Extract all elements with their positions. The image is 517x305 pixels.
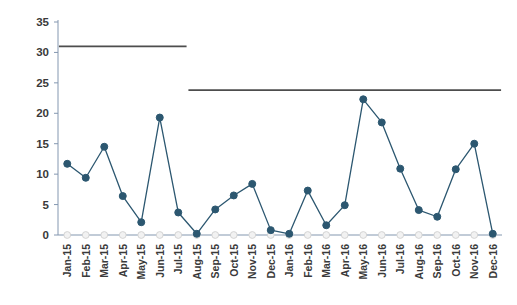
baseline-marker (341, 232, 348, 239)
y-tick-label: 20 (36, 107, 49, 119)
x-tick-label: Nov-16 (468, 244, 480, 279)
x-tick-label: Aug-16 (413, 244, 425, 280)
baseline-marker (138, 232, 145, 239)
baseline-marker (434, 232, 441, 239)
baseline-marker (378, 232, 385, 239)
baseline-marker (452, 232, 459, 239)
data-point (304, 187, 311, 194)
data-point (138, 219, 145, 226)
x-tick-label: Dec-16 (487, 244, 499, 279)
data-point (452, 166, 459, 173)
baseline-marker (360, 232, 367, 239)
data-point (101, 143, 108, 150)
baseline-marker (397, 232, 404, 239)
x-tick-label: Mar-15 (98, 244, 110, 278)
data-point (267, 227, 274, 234)
data-point (471, 140, 478, 147)
data-point (341, 202, 348, 209)
x-tick-label: Apr-16 (339, 244, 351, 277)
x-tick-label: Apr-15 (117, 244, 129, 277)
chart-container: 05101520253035 Jan-15Feb-15Mar-15Apr-15M… (0, 0, 517, 305)
x-tick-label: Jun-15 (154, 244, 166, 278)
baseline-marker (156, 232, 163, 239)
data-point (212, 206, 219, 213)
x-tick-label: May-15 (135, 244, 147, 280)
data-point (82, 174, 89, 181)
data-point (64, 160, 71, 167)
x-tick-label: May-16 (357, 244, 369, 280)
data-point (323, 222, 330, 229)
x-tick-label: Feb-16 (302, 244, 314, 278)
data-point (286, 230, 293, 237)
y-tick-label: 5 (43, 199, 50, 211)
x-tick-label: Sep-16 (431, 244, 443, 279)
x-tick-label: Oct-16 (450, 244, 462, 277)
baseline-marker (304, 232, 311, 239)
data-point (415, 207, 422, 214)
data-point (360, 96, 367, 103)
data-point (397, 165, 404, 172)
data-point (175, 209, 182, 216)
x-tick-label: Jul-15 (172, 244, 184, 275)
x-tick-label: Aug-15 (191, 244, 203, 280)
data-point (230, 192, 237, 199)
baseline-marker (119, 232, 126, 239)
data-point (434, 213, 441, 220)
data-point (119, 193, 126, 200)
baseline-marker (212, 232, 219, 239)
baseline-marker (471, 232, 478, 239)
baseline-marker (415, 232, 422, 239)
x-tick-label: Jun-16 (376, 244, 388, 278)
x-tick-label: Feb-15 (80, 244, 92, 278)
x-tick-label: Sep-15 (209, 244, 221, 279)
x-tick-label: Jul-16 (394, 244, 406, 275)
x-tick-label: Jan-15 (61, 244, 73, 277)
x-tick-label: Mar-16 (320, 244, 332, 278)
x-tick-label: Oct-15 (228, 244, 240, 277)
baseline-marker (175, 232, 182, 239)
baseline-marker (64, 232, 71, 239)
baseline-marker (249, 232, 256, 239)
baseline-marker (101, 232, 108, 239)
data-point (378, 119, 385, 126)
data-point (489, 230, 496, 237)
y-tick-label: 25 (36, 77, 49, 89)
data-point (156, 114, 163, 121)
y-tick-label: 15 (36, 138, 49, 150)
y-tick-label: 10 (36, 168, 49, 180)
baseline-marker (82, 232, 89, 239)
x-tick-label: Jan-16 (283, 244, 295, 277)
x-tick-label: Dec-15 (265, 244, 277, 279)
x-tick-label: Nov-15 (246, 244, 258, 279)
y-tick-label: 30 (36, 46, 49, 58)
y-tick-label: 35 (36, 16, 49, 28)
data-point (249, 180, 256, 187)
data-point (193, 230, 200, 237)
baseline-marker (323, 232, 330, 239)
line-chart: 05101520253035 Jan-15Feb-15Mar-15Apr-15M… (0, 0, 517, 305)
baseline-marker (230, 232, 237, 239)
y-tick-label: 0 (43, 229, 49, 241)
